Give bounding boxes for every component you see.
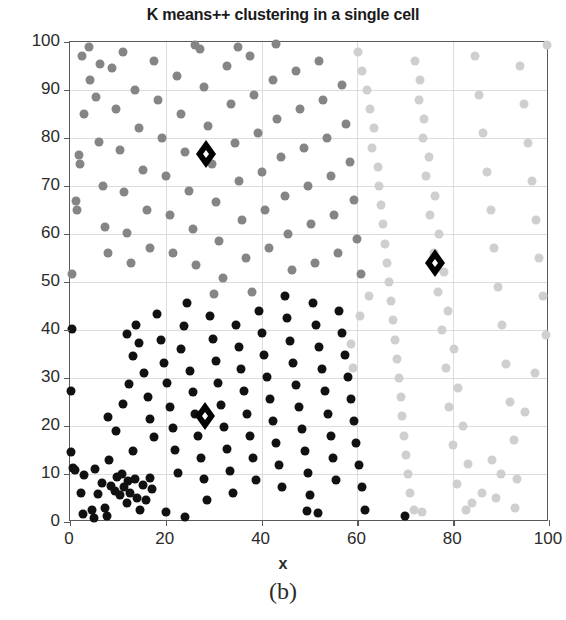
y-axis-tick — [64, 378, 70, 379]
centroid-marker — [424, 248, 446, 282]
y-axis-tick-label: 0 — [4, 511, 60, 531]
y-axis-tick-label: 20 — [4, 415, 60, 435]
y-axis-tick — [64, 426, 70, 427]
x-axis-tick — [70, 520, 71, 526]
x-axis-tick — [549, 520, 550, 526]
y-axis-tick-label: 100 — [4, 31, 60, 51]
figure-caption: (b) — [0, 578, 566, 605]
y-axis-tick — [64, 474, 70, 475]
centroid-marker — [195, 139, 217, 173]
x-axis-tick-label: 40 — [231, 529, 291, 549]
y-axis-tick-label: 90 — [4, 79, 60, 99]
x-axis-tick — [166, 520, 167, 526]
x-axis-tick — [262, 520, 263, 526]
y-axis-tick — [64, 282, 70, 283]
centroid-marker — [194, 401, 216, 435]
y-axis-tick — [64, 90, 70, 91]
plot-area — [69, 41, 548, 521]
y-axis-tick-label: 80 — [4, 127, 60, 147]
centroid-markers-layer — [70, 42, 547, 520]
page-title: K means++ clustering in a single cell — [0, 6, 566, 24]
y-axis-tick — [64, 42, 70, 43]
y-axis-tick-label: 10 — [4, 463, 60, 483]
y-axis-tick — [64, 138, 70, 139]
y-axis-tick — [64, 234, 70, 235]
y-axis-tick-label: 70 — [4, 175, 60, 195]
y-axis-tick-label: 50 — [4, 271, 60, 291]
x-axis-tick — [357, 520, 358, 526]
x-axis-label: x — [0, 555, 566, 573]
y-axis-tick-label: 30 — [4, 367, 60, 387]
x-axis-tick — [453, 520, 454, 526]
x-axis-tick-label: 20 — [135, 529, 195, 549]
x-axis-tick-label: 0 — [39, 529, 99, 549]
y-axis-tick-label: 40 — [4, 319, 60, 339]
y-axis-tick — [64, 186, 70, 187]
y-axis-tick-label: 60 — [4, 223, 60, 243]
y-axis-tick — [64, 330, 70, 331]
x-axis-tick-label: 60 — [326, 529, 386, 549]
x-axis-tick-label: 100 — [518, 529, 566, 549]
figure-panel: K means++ clustering in a single cell 01… — [0, 0, 566, 620]
x-axis-tick-label: 80 — [422, 529, 482, 549]
